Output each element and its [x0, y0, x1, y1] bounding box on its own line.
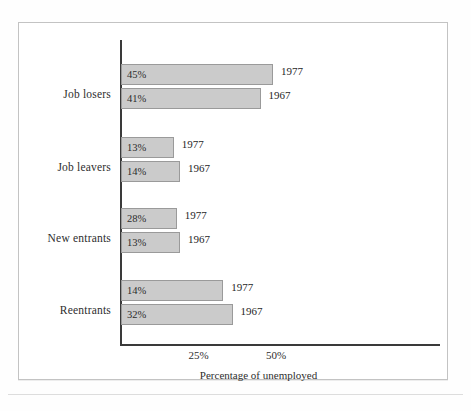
bar-year-label: 1967: [269, 88, 291, 102]
x-tick-label: 50%: [266, 349, 286, 361]
bar-year-label: 1967: [188, 232, 210, 246]
category-label: Reentrants: [0, 304, 111, 316]
x-axis-caption: Percentage of unemployed: [0, 369, 471, 381]
x-tick-label: 25%: [188, 349, 208, 361]
category-label: New entrants: [0, 232, 111, 244]
category-label: Job losers: [0, 88, 111, 100]
bar: 41%: [121, 88, 261, 109]
bar: 32%: [121, 304, 233, 325]
bar: 14%: [121, 280, 223, 301]
bar: 14%: [121, 161, 180, 182]
bar-year-label: 1967: [241, 304, 263, 318]
bar-year-label: 1977: [281, 64, 303, 78]
x-axis-line: [120, 344, 440, 346]
bar-value-label: 14%: [127, 165, 146, 179]
bar: 28%: [121, 208, 177, 229]
bar: 13%: [121, 232, 180, 253]
bar: 13%: [121, 137, 174, 158]
x-axis-caption-text: Percentage of unemployed: [200, 369, 317, 381]
bar-value-label: 13%: [127, 141, 146, 155]
bar-value-label: 14%: [127, 284, 146, 298]
category-label: Job leavers: [0, 161, 111, 173]
plot-area: Job losersJob leaversNew entrantsReentra…: [0, 0, 471, 411]
bar-value-label: 13%: [127, 236, 146, 250]
bar: 45%: [121, 64, 273, 85]
page-rule: [8, 394, 463, 395]
bar-year-label: 1967: [188, 161, 210, 175]
bar-year-label: 1977: [182, 137, 204, 151]
bar-value-label: 28%: [127, 212, 146, 226]
bar-value-label: 41%: [127, 92, 146, 106]
bar-value-label: 45%: [127, 68, 146, 82]
bar-value-label: 32%: [127, 308, 146, 322]
bar-year-label: 1977: [231, 280, 253, 294]
bar-year-label: 1977: [185, 208, 207, 222]
chart-screenshot: Job losersJob leaversNew entrantsReentra…: [0, 0, 471, 411]
